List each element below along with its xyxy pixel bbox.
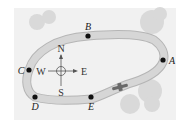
point-c-label: C: [18, 65, 25, 76]
compass-north-label: N: [57, 43, 64, 54]
point-e-label: E: [87, 101, 94, 112]
compass-west-label: W: [36, 66, 46, 77]
point-a-dot: [160, 57, 165, 62]
track-map-svg: N S E W A B C D E: [0, 0, 184, 123]
point-b-dot: [85, 33, 90, 38]
point-d-label: D: [30, 101, 39, 112]
point-d-dot: [32, 94, 37, 99]
point-b-label: B: [85, 21, 91, 32]
compass-east-label: E: [81, 66, 87, 77]
point-a-label: A: [168, 55, 176, 66]
point-c-dot: [26, 67, 31, 72]
point-e-dot: [88, 94, 93, 99]
track-diagram: N S E W A B C D E: [0, 0, 184, 123]
compass-south-label: S: [58, 87, 64, 98]
